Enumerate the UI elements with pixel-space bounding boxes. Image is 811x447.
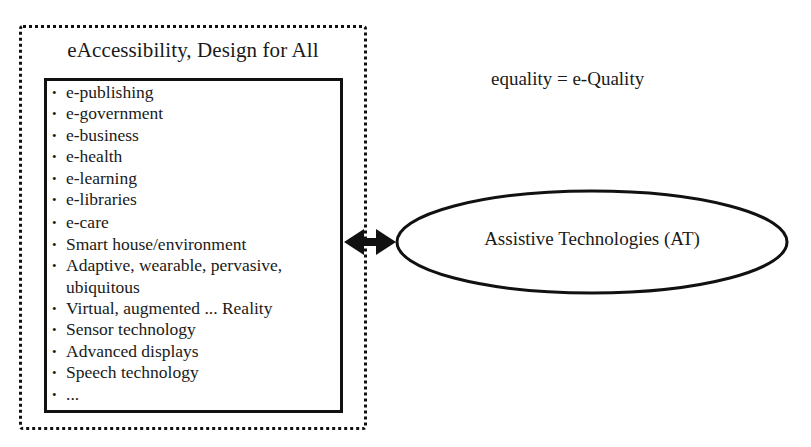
assistive-technologies-label: Assistive Technologies (AT) xyxy=(396,228,788,250)
double-arrow-icon xyxy=(344,229,396,255)
connector-graphics xyxy=(0,0,811,447)
